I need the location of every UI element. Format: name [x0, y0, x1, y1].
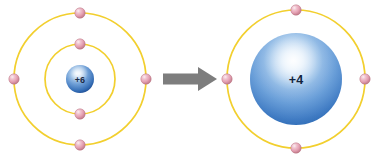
atom-diagram: +6 +4: [0, 0, 382, 157]
electron: [360, 74, 370, 84]
electron: [291, 5, 301, 15]
electron: [141, 74, 151, 84]
nucleus-sphere-glow: [66, 65, 94, 93]
atom-right-nucleus: +4: [250, 33, 342, 125]
atom-left-nucleus: +6: [66, 65, 94, 93]
electron: [75, 39, 85, 49]
electron: [291, 143, 301, 153]
electron: [75, 140, 85, 150]
electron: [9, 74, 19, 84]
electron: [222, 74, 232, 84]
nucleus-sphere-glow: [250, 33, 342, 125]
electron: [75, 109, 85, 119]
diagram-canvas: +6 +4: [0, 0, 382, 157]
electron: [75, 8, 85, 18]
